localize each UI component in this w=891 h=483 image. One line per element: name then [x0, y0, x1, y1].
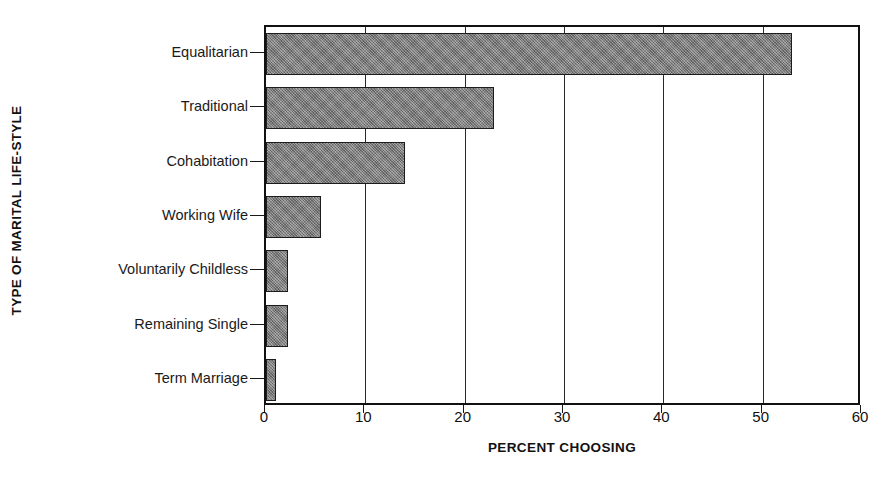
- bar: [266, 33, 792, 75]
- y-axis-tick: [250, 106, 264, 107]
- chart-figure: TYPE OF MARITAL LIFE-STYLE EqualitarianT…: [0, 0, 891, 483]
- category-label-row: Traditional: [36, 95, 248, 117]
- category-label: Remaining Single: [134, 316, 248, 332]
- category-label: Term Marriage: [155, 370, 248, 386]
- category-label: Traditional: [181, 98, 248, 114]
- gridline-20: [465, 27, 466, 403]
- plot-area: [264, 25, 860, 405]
- category-label-row: Equalitarian: [36, 41, 248, 63]
- category-label: Voluntarily Childless: [118, 261, 248, 277]
- bar: [266, 196, 321, 238]
- x-axis-tick-label: 20: [454, 408, 471, 425]
- y-axis-title-text: TYPE OF MARITAL LIFE-STYLE: [10, 105, 25, 315]
- x-axis-tick-label: 30: [554, 408, 571, 425]
- plot-inner: [266, 27, 858, 403]
- bar: [266, 87, 494, 129]
- x-axis-tick-label: 40: [653, 408, 670, 425]
- x-axis-tick-label: 10: [355, 408, 372, 425]
- gridline-30: [564, 27, 565, 403]
- y-axis-tick: [250, 269, 264, 270]
- category-label-row: Working Wife: [36, 204, 248, 226]
- x-axis-tick-label: 50: [752, 408, 769, 425]
- bar: [266, 305, 288, 347]
- gridline-50: [763, 27, 764, 403]
- bar: [266, 250, 288, 292]
- category-label: Equalitarian: [171, 44, 248, 60]
- x-axis-tick-labels: 0102030405060: [264, 408, 860, 432]
- y-axis-category-labels: EqualitarianTraditionalCohabitationWorki…: [36, 25, 248, 405]
- gridline-40: [663, 27, 664, 403]
- category-label-row: Term Marriage: [36, 367, 248, 389]
- y-axis-tick: [250, 215, 264, 216]
- bar: [266, 359, 276, 401]
- y-axis-tick: [250, 324, 264, 325]
- y-axis-tick: [250, 161, 264, 162]
- y-axis-tick: [250, 378, 264, 379]
- y-axis-title: TYPE OF MARITAL LIFE-STYLE: [0, 0, 34, 420]
- x-axis-tick-label: 0: [260, 408, 268, 425]
- y-axis-ticks: [250, 25, 264, 405]
- x-axis-tick-label: 60: [852, 408, 869, 425]
- y-axis-tick: [250, 52, 264, 53]
- category-label: Working Wife: [162, 207, 248, 223]
- bar: [266, 142, 405, 184]
- category-label-row: Voluntarily Childless: [36, 258, 248, 280]
- category-label-row: Cohabitation: [36, 150, 248, 172]
- x-axis-title: PERCENT CHOOSING: [264, 440, 860, 455]
- category-label: Cohabitation: [167, 153, 248, 169]
- gridline-10: [365, 27, 366, 403]
- category-label-row: Remaining Single: [36, 313, 248, 335]
